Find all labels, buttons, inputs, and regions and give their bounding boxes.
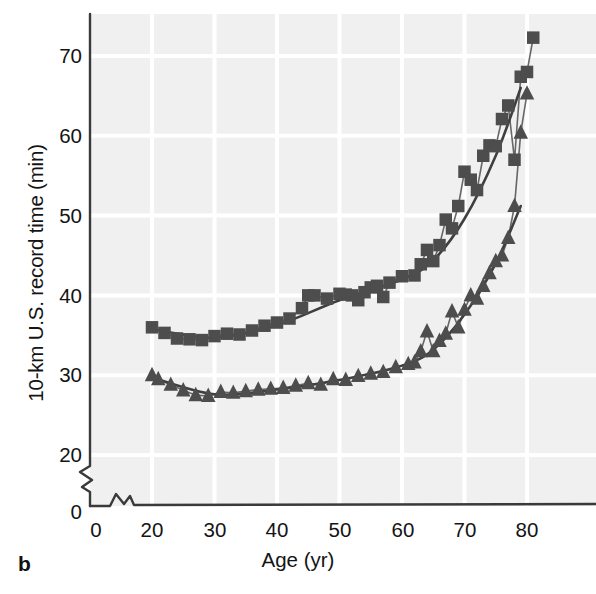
marker-square: [433, 239, 446, 252]
marker-square: [408, 269, 421, 282]
marker-square: [377, 291, 390, 304]
marker-square: [308, 289, 321, 302]
x-tick-label: 40: [247, 518, 307, 542]
y-tick-label: 60: [26, 124, 82, 148]
marker-square: [246, 324, 259, 337]
x-axis-label-text: Age (yr): [262, 548, 335, 571]
x-tick-label: 80: [497, 518, 557, 542]
y-tick-label: 20: [26, 443, 82, 467]
y-tick-label: 50: [26, 204, 82, 228]
marker-square: [496, 113, 509, 126]
chart-plot-area: [0, 0, 596, 594]
marker-square: [452, 200, 465, 213]
y-axis-ticks: 0203040506070: [22, 0, 82, 594]
x-tick-label: 0: [66, 518, 126, 542]
figure-panel-b: 0203040506070 020304050607080 10-km U.S.…: [0, 0, 596, 594]
x-axis-label: Age (yr): [0, 548, 596, 572]
x-tick-label: 60: [373, 518, 433, 542]
y-tick-label: 70: [26, 44, 82, 68]
marker-square: [233, 328, 246, 341]
marker-square: [221, 327, 234, 340]
marker-square: [421, 244, 434, 257]
marker-square: [296, 302, 309, 315]
y-tick-label: 30: [26, 363, 82, 387]
x-tick-label: 50: [310, 518, 370, 542]
marker-square: [471, 184, 484, 197]
marker-square: [383, 276, 396, 289]
marker-square: [258, 319, 271, 332]
marker-square: [146, 321, 159, 334]
marker-square: [446, 222, 459, 235]
y-tick-label: 40: [26, 284, 82, 308]
x-tick-label: 70: [435, 518, 495, 542]
marker-square: [271, 316, 284, 329]
marker-square: [183, 333, 196, 346]
marker-square: [527, 31, 540, 44]
x-tick-label: 30: [185, 518, 245, 542]
marker-square: [321, 292, 334, 305]
marker-square: [208, 330, 221, 343]
marker-square: [196, 334, 209, 347]
marker-square: [283, 312, 296, 325]
marker-square: [371, 280, 384, 293]
x-tick-label: 20: [122, 518, 182, 542]
marker-square: [396, 270, 409, 283]
marker-square: [158, 327, 171, 340]
marker-square: [521, 66, 534, 79]
marker-square: [171, 332, 184, 345]
marker-square: [490, 140, 503, 153]
marker-square: [502, 99, 515, 112]
marker-square: [427, 255, 440, 268]
x-axis-ticks: 020304050607080: [0, 518, 596, 546]
panel-label: b: [18, 552, 31, 576]
marker-square: [415, 258, 428, 271]
